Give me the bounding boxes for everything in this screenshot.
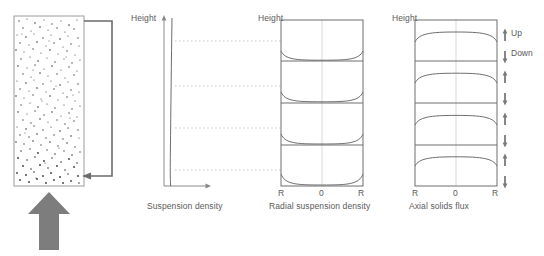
flux-marker-up-1 (503, 29, 508, 42)
panel-radial-suspension-density (281, 20, 363, 186)
flux-marker-up-2 (503, 71, 508, 84)
panel2-caption: Suspension density (147, 201, 223, 211)
flux-marker-down-4 (503, 176, 508, 189)
gas-inlet-arrow (28, 192, 70, 250)
suspension-density-curve (170, 18, 172, 186)
flux-down-label: Down (511, 48, 533, 58)
panel-riser-column (14, 16, 112, 250)
panel4-tick-left: R (412, 188, 418, 198)
flux-marker-up-3 (503, 113, 508, 126)
panel4-tick-right: R (492, 188, 498, 198)
panel4-caption: Axial solids flux (409, 201, 469, 211)
panel3-caption: Radial suspension density (269, 201, 370, 211)
panel-suspension-density (162, 15, 281, 188)
panel3-tick-left: R (278, 188, 284, 198)
panel4-height-label: Height (392, 13, 417, 23)
suspension-x-axis-arrowhead (206, 184, 212, 189)
panel3-tick-right: R (358, 188, 364, 198)
flux-direction-markers (503, 29, 508, 189)
flux-marker-down-1 (503, 51, 508, 64)
flux-up-label: Up (511, 28, 522, 38)
recycle-loop-pipe (84, 21, 112, 176)
flux-marker-down-3 (503, 135, 508, 148)
flux-marker-up-4 (503, 154, 508, 167)
panel-axial-solids-flux (415, 20, 507, 189)
panel4-tick-center: 0 (453, 188, 458, 198)
suspension-gridlines (175, 41, 281, 170)
panel2-height-label: Height (131, 13, 156, 23)
flux-marker-down-2 (503, 93, 508, 106)
figure-canvas: Height Suspension density Height R 0 R R… (0, 0, 544, 256)
diagram-svg (0, 0, 544, 256)
panel3-tick-center: 0 (319, 188, 324, 198)
suspension-y-axis-arrowhead (162, 15, 167, 21)
panel3-height-label: Height (258, 13, 283, 23)
